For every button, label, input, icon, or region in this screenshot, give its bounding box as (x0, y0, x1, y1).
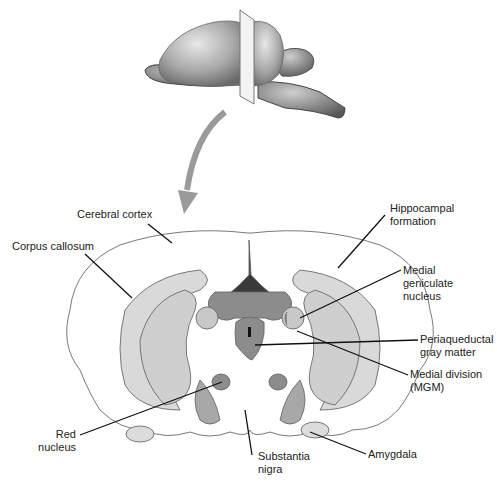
whole-brain-illustration (145, 10, 345, 118)
section-plane (240, 10, 254, 104)
section-arrow-icon (178, 112, 225, 214)
label-substantia-nigra: Substantia nigra (258, 450, 310, 476)
label-amygdala: Amygdala (368, 448, 417, 461)
label-red-nucleus: Red nucleus (30, 428, 76, 454)
label-cerebral-cortex: Cerebral cortex (77, 208, 152, 221)
label-medial-division: Medial division (MGM) (410, 368, 482, 394)
label-periaqueductal-gray: Periaqueductal gray matter (420, 333, 493, 359)
coronal-section (67, 231, 434, 442)
label-hippocampal-formation: Hippocampal formation (390, 202, 454, 228)
label-corpus-callosum: Corpus callosum (12, 240, 94, 253)
label-medial-geniculate-nucleus: Medial geniculate nucleus (403, 264, 453, 303)
